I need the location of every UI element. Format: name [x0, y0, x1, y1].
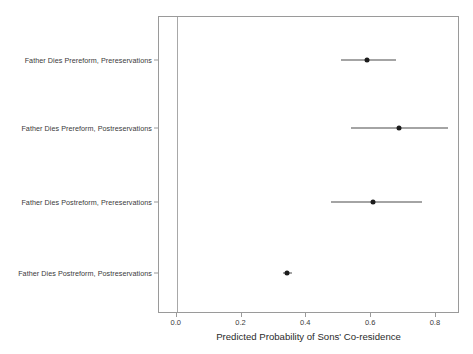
x-axis-tick-label: 0.2	[235, 318, 245, 327]
plot-area	[158, 16, 459, 313]
confidence-interval-line	[331, 202, 422, 203]
y-axis-category-label: Father Dies Prereform, Prereservations	[0, 56, 158, 65]
estimate-point-marker	[397, 126, 402, 131]
x-axis-tick	[435, 313, 436, 317]
y-axis-category-label: Father Dies Postreform, Postreservations	[0, 269, 158, 278]
y-axis-tick	[154, 273, 158, 274]
estimate-point-marker	[371, 200, 376, 205]
x-axis-tick	[370, 313, 371, 317]
x-axis-tick-label: 0.4	[300, 318, 310, 327]
x-axis-tick	[176, 313, 177, 317]
y-axis-category-label: Father Dies Postreform, Prereservations	[0, 198, 158, 207]
coefficient-plot-figure: Father Dies Prereform, PrereservationsFa…	[0, 0, 473, 354]
x-axis-tick-label: 0.0	[170, 318, 180, 327]
estimate-point-marker	[364, 58, 369, 63]
x-axis-tick	[305, 313, 306, 317]
y-axis-category-label: Father Dies Prereform, Postreservations	[0, 124, 158, 133]
y-axis-tick	[154, 128, 158, 129]
y-axis-tick	[154, 60, 158, 61]
x-axis-tick	[241, 313, 242, 317]
y-axis-tick	[154, 202, 158, 203]
x-axis-tick-label: 0.8	[430, 318, 440, 327]
estimate-point-marker	[285, 271, 290, 276]
zero-reference-line	[177, 17, 178, 312]
x-axis-title: Predicted Probability of Sons' Co-reside…	[158, 331, 459, 342]
x-axis-tick-label: 0.6	[365, 318, 375, 327]
